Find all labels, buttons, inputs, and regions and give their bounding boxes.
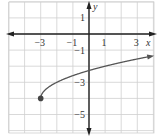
x-axis-label: x [145, 37, 151, 48]
start-point-dot [38, 96, 44, 102]
y-tick-label: 1 [80, 12, 85, 23]
x-tick-label: 3 [134, 37, 139, 48]
coordinate-plane: −3−1131−1−3−5xy [0, 0, 160, 139]
x-tick-label: 1 [102, 37, 107, 48]
y-axis-down-arrow-icon [87, 128, 92, 136]
y-tick-label: −1 [74, 45, 85, 56]
x-axis-left-arrow-icon [6, 32, 14, 37]
y-axis-label: y [92, 1, 98, 12]
y-tick-label: −3 [74, 77, 85, 88]
y-tick-label: −5 [74, 109, 85, 120]
x-tick-label: −3 [34, 37, 45, 48]
function-curve [38, 54, 154, 101]
tick-labels: −3−1131−1−3−5xy [34, 1, 151, 120]
square-root-graph: −3−1131−1−3−5xy [0, 0, 160, 139]
